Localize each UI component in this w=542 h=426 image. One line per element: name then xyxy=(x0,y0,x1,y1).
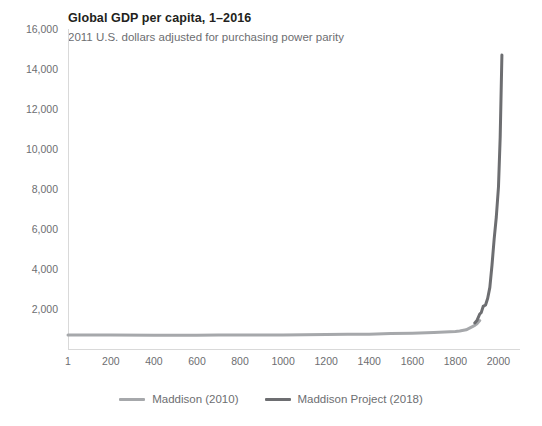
legend-item[interactable]: Maddison (2010) xyxy=(119,392,238,406)
y-tick-label: 10,000 xyxy=(26,144,58,154)
x-tick-label: 600 xyxy=(188,355,206,367)
x-tick-label: 800 xyxy=(231,355,249,367)
x-axis-labels: 1200400600800100012001400160018002000 xyxy=(68,355,520,373)
series-line xyxy=(68,321,480,336)
y-tick-label: 2,000 xyxy=(32,304,58,314)
x-tick-label: 400 xyxy=(145,355,163,367)
y-tick-label: 6,000 xyxy=(32,224,58,234)
x-tick-label: 1400 xyxy=(358,355,381,367)
y-tick-label: 14,000 xyxy=(26,64,58,74)
legend-swatch xyxy=(265,398,291,401)
y-tick-label: 8,000 xyxy=(32,184,58,194)
legend-swatch xyxy=(119,398,145,401)
x-tick-label: 200 xyxy=(102,355,120,367)
x-tick-label: 1 xyxy=(65,355,71,367)
x-tick-label: 1000 xyxy=(271,355,294,367)
legend-label: Maddison Project (2018) xyxy=(298,392,423,406)
series-line xyxy=(475,55,502,323)
legend-item[interactable]: Maddison Project (2018) xyxy=(265,392,423,406)
y-axis-labels: 2,0004,0006,0008,00010,00012,00014,00016… xyxy=(0,29,58,349)
chart-title: Global GDP per capita, 1–2016 xyxy=(68,10,528,26)
x-tick-label: 1800 xyxy=(444,355,467,367)
x-tick-label: 1600 xyxy=(401,355,424,367)
legend-label: Maddison (2010) xyxy=(152,392,238,406)
x-tick-label: 2000 xyxy=(487,355,510,367)
chart-container: Global GDP per capita, 1–2016 2011 U.S. … xyxy=(0,0,542,426)
plot-area xyxy=(68,29,520,349)
y-tick-label: 12,000 xyxy=(26,104,58,114)
chart-legend: Maddison (2010)Maddison Project (2018) xyxy=(0,392,542,406)
series-lines xyxy=(68,29,520,349)
x-axis-line xyxy=(68,349,520,350)
y-tick-label: 4,000 xyxy=(32,264,58,274)
y-tick-label: 16,000 xyxy=(26,24,58,34)
x-tick-label: 1200 xyxy=(315,355,338,367)
